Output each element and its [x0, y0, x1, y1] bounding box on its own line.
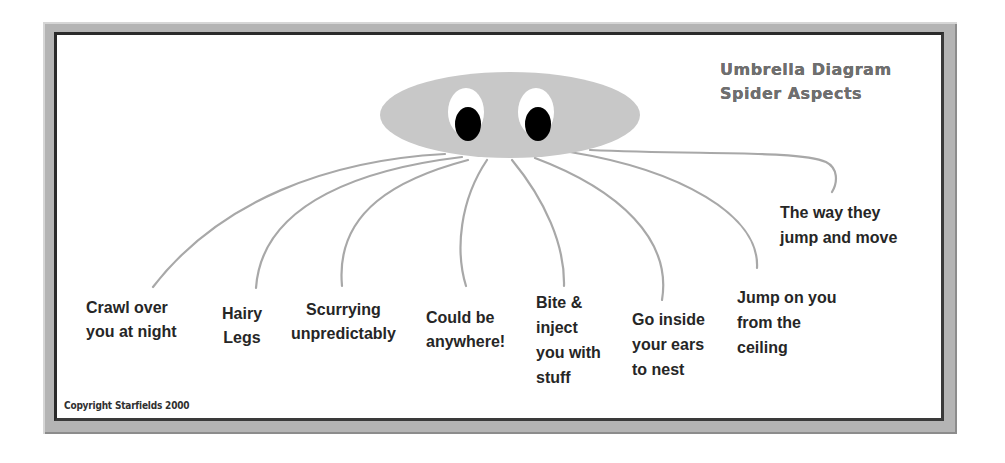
aspect-label-go-inside: Go inside your ears to nest: [632, 307, 705, 382]
aspect-line: Scurrying: [291, 298, 396, 322]
leg-bite: [512, 160, 564, 286]
copyright-notice: Copyright Starfields 2000: [64, 400, 189, 411]
aspect-line: Crawl over: [86, 296, 177, 320]
aspect-line: anywhere!: [426, 330, 505, 354]
aspect-label-bite: Bite & inject you with stuff: [536, 290, 601, 390]
aspect-line: Could be: [426, 306, 505, 330]
aspect-line: you with: [536, 340, 601, 365]
aspect-label-scurrying: Scurrying unpredictably: [291, 298, 396, 346]
aspect-label-crawl: Crawl over you at night: [86, 296, 177, 344]
aspect-line: stuff: [536, 365, 601, 390]
aspect-line: you at night: [86, 320, 177, 344]
aspect-label-jump-on: Jump on you from the ceiling: [737, 285, 837, 360]
spider-body: [380, 72, 640, 158]
aspect-line: unpredictably: [291, 322, 396, 346]
aspect-line: from the: [737, 310, 837, 335]
aspect-line: inject: [536, 315, 601, 340]
leg-hairy: [256, 157, 462, 288]
aspect-line: Go inside: [632, 307, 705, 332]
aspect-line: Legs: [222, 326, 262, 350]
aspect-line: Hairy: [222, 302, 262, 326]
aspect-label-hairy: Hairy Legs: [222, 302, 262, 350]
aspect-line: to nest: [632, 357, 705, 382]
leg-crawl: [153, 154, 445, 287]
aspect-line: Jump on you: [737, 285, 837, 310]
aspect-line: jump and move: [780, 225, 897, 250]
aspect-line: Bite &: [536, 290, 601, 315]
aspect-line: The way they: [780, 200, 897, 225]
aspect-line: your ears: [632, 332, 705, 357]
leg-could-be: [461, 160, 487, 286]
diagram-title: Umbrella Diagram Spider Aspects: [720, 58, 892, 106]
left-pupil: [455, 107, 481, 141]
spider-legs: [153, 150, 836, 300]
leg-way-they: [590, 150, 836, 192]
aspect-label-could-be: Could be anywhere!: [426, 306, 505, 354]
right-pupil: [525, 107, 551, 141]
leg-jump-on: [570, 152, 757, 268]
aspect-label-way-they: The way they jump and move: [780, 200, 897, 250]
title-line-1: Umbrella Diagram: [720, 58, 892, 82]
title-line-2: Spider Aspects: [720, 82, 892, 106]
aspect-line: ceiling: [737, 335, 837, 360]
